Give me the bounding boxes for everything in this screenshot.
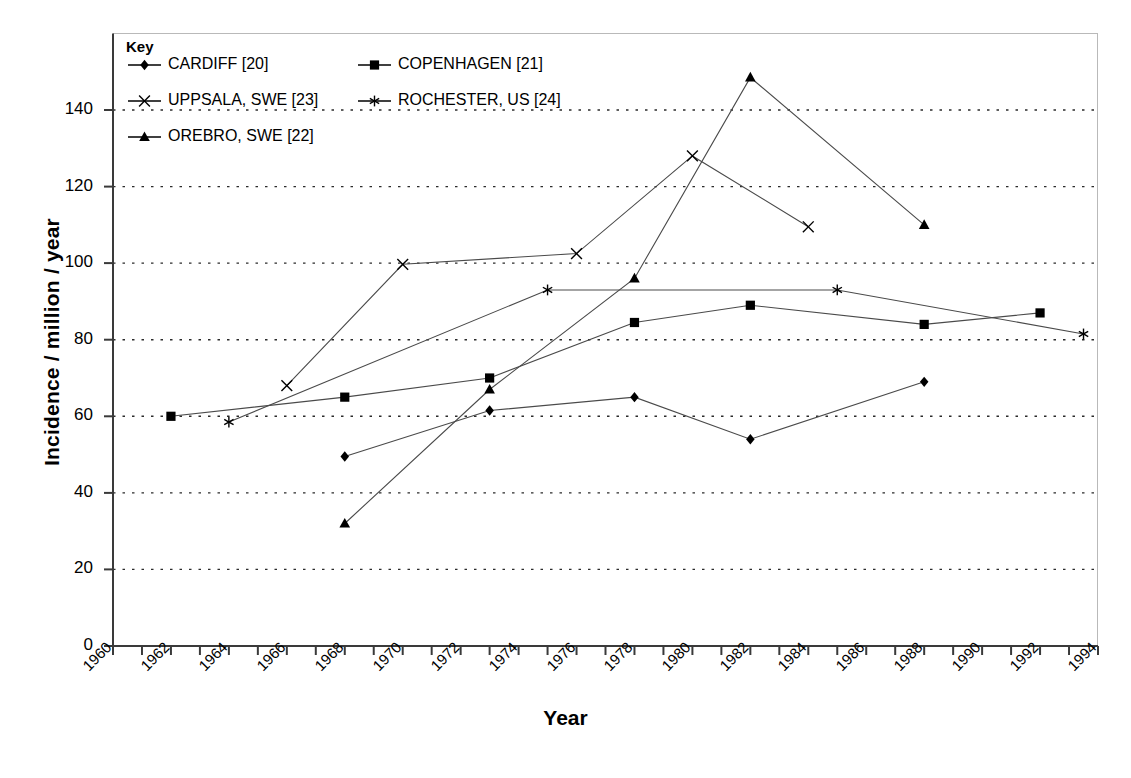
data-point [687,151,698,162]
legend-entry-label: CARDIFF [20] [168,55,268,73]
y-axis [104,34,113,647]
series-orebro-swe-22 [339,72,929,528]
data-point [484,384,495,394]
data-point [340,393,349,402]
data-point [920,320,929,329]
data-point [919,219,930,229]
data-point [746,434,755,444]
data-point [281,380,292,391]
series-rochester-us-24 [224,285,1088,428]
data-point [485,373,494,382]
y-gridlines [113,110,1098,569]
y-tick-label: 20 [33,558,93,578]
data-point [630,392,639,402]
x-axis-title: Year [0,706,1131,730]
data-point [224,417,233,428]
y-tick-label: 140 [33,99,93,119]
series-copenhagen-21 [166,301,1044,421]
legend-entry-label: OREBRO, SWE [22] [168,127,314,145]
legend-title: Key [126,38,154,55]
data-point [1035,308,1044,317]
data-point [485,405,494,415]
legend-entry-label: ROCHESTER, US [24] [398,91,561,109]
data-point [630,318,639,327]
data-point [803,221,814,232]
data-point [1079,329,1088,340]
legend-entry-label: UPPSALA, SWE [23] [168,91,318,109]
y-tick-label: 0 [33,635,93,655]
figure-container: 020406080100120140 196019621964196619681… [0,0,1131,778]
data-point [746,301,755,310]
data-point [166,412,175,421]
legend-entry-label: COPENHAGEN [21] [398,55,543,73]
series-cardiff-20 [341,377,929,462]
data-point [341,451,350,461]
y-axis-title: Incidence / million / year [40,177,64,507]
data-point [745,72,756,82]
data-point [629,273,640,283]
data-point [920,377,929,387]
